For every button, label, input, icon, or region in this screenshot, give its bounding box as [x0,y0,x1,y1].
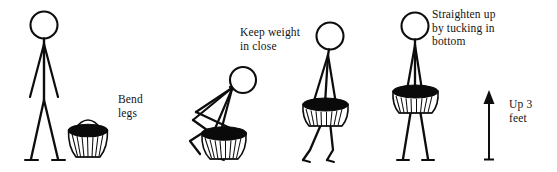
basket2-rim [202,127,247,141]
stick-figure-lifting [303,23,344,163]
basket-carried-mid [303,98,348,126]
figure1-right-arm [44,44,58,97]
caption-keep-weight-in-close: Keep weight in close [240,26,300,53]
basket-being-lifted [202,127,247,159]
stick-figure-standing [25,12,65,161]
basket3-rim [303,98,348,111]
figure3-head [317,23,344,50]
caption-straighten-up: Straighten up by tucking in bottom [432,8,496,49]
figure1-right-leg [44,100,58,159]
basket4-rim [393,85,438,98]
basket1-rim [69,124,108,136]
caption-up-three-feet: Up 3 feet [509,98,532,125]
figure1-left-leg [31,100,44,159]
figure4-left-arm [407,45,415,90]
figure3-left-foot [303,160,310,162]
figure3-right-arm [328,55,336,104]
basket-held-at-waist [393,85,438,113]
figure3-left-leg [303,122,322,160]
figure4-head [402,13,429,40]
basket-on-ground [68,120,107,157]
up-arrow [484,90,495,160]
figure3-right-leg [327,122,333,160]
figure1-head [31,12,58,39]
figure4-left-leg [403,110,411,159]
up-arrow-head [484,90,495,104]
figure1-left-arm [30,44,44,97]
figure4-right-leg [420,110,428,159]
figure3-right-foot [327,160,334,162]
caption-bend-legs: Bend legs [118,93,143,120]
